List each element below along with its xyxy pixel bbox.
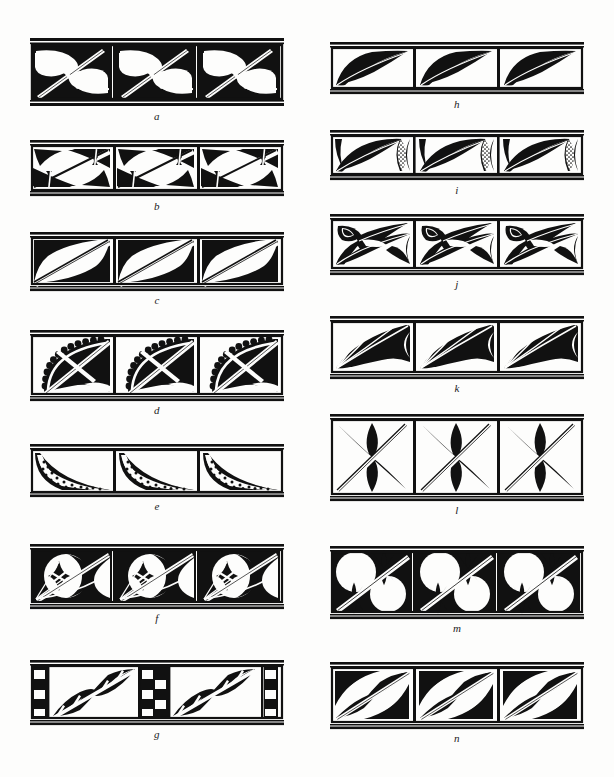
figure-e: e [30,444,284,500]
figure-n-band [330,662,584,732]
figure-e-band [30,444,284,500]
figure-a: a [30,38,284,108]
figure-d-band [30,330,284,404]
figure-label-k: k [330,382,584,394]
figure-f: f [30,544,284,612]
figure-label-i: i [330,184,584,196]
figure-f-band [30,544,284,612]
figure-k: k [330,316,584,382]
figure-label-b: b [30,200,284,212]
figure-m: m [330,546,584,622]
figure-j: j [330,214,584,278]
figure-j-band [330,214,584,278]
figure-a-band [30,38,284,108]
figure-b: b [30,140,284,198]
figure-m-band [330,546,584,622]
figure-g: g [30,660,284,728]
figure-c-band [30,232,284,294]
figure-i: i [330,130,584,184]
figure-h-band [330,42,584,98]
figure-label-a: a [30,110,284,122]
figure-label-f: f [30,612,284,624]
figure-label-g: g [30,728,284,740]
figure-h: h [330,42,584,98]
figure-label-c: c [30,294,284,306]
figure-label-d: d [30,404,284,416]
ornament-plate: a [0,0,614,777]
figure-l: l [330,414,584,504]
figure-b-band [30,140,284,198]
figure-k-band [330,316,584,382]
figure-label-e: e [30,500,284,512]
figure-label-l: l [330,504,584,516]
figure-label-h: h [330,98,584,110]
figure-d: d [30,330,284,404]
figure-label-n: n [330,732,584,744]
figure-label-j: j [330,278,584,290]
figure-c: c [30,232,284,294]
figure-g-band [30,660,284,728]
figure-label-m: m [330,622,584,634]
figure-n: n [330,662,584,732]
figure-i-band [330,130,584,184]
figure-l-band [330,414,584,504]
